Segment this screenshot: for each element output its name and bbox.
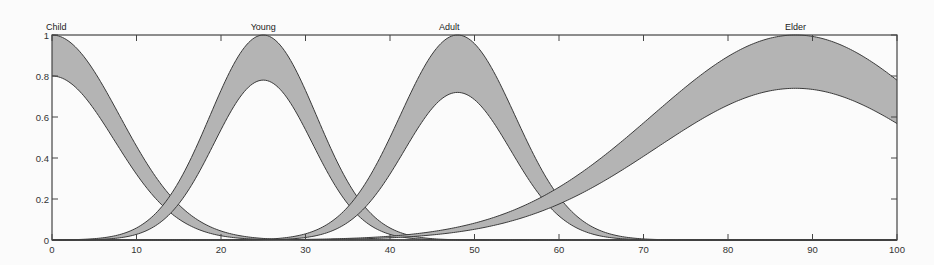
x-tick-label: 100 [889,244,905,255]
x-tick-label: 50 [469,244,480,255]
series-labels: ChildYoungAdultElder [46,22,806,32]
y-tick-label: 0.2 [36,194,49,205]
x-tick-label: 0 [49,244,54,255]
x-tick-label: 30 [300,244,311,255]
series-label-adult: Adult [439,22,460,32]
x-tick-label: 70 [638,244,649,255]
y-tick-label: 0.4 [36,153,49,164]
y-tick-label: 0.8 [36,71,49,82]
x-tick-label: 90 [807,244,818,255]
series-label-young: Young [251,22,276,32]
membership-bands [52,35,897,240]
series-label-child: Child [46,22,67,32]
x-tick-label: 60 [554,244,565,255]
x-tick-label: 40 [385,244,396,255]
y-tick-label: 0.6 [36,112,49,123]
x-tick-label: 20 [216,244,227,255]
series-label-elder: Elder [785,22,806,32]
x-tick-label: 10 [131,244,142,255]
x-tick-label: 80 [723,244,734,255]
y-tick-label: 0 [44,235,49,246]
membership-function-chart: 010203040506070809010000.20.40.60.81 Chi… [0,0,934,265]
